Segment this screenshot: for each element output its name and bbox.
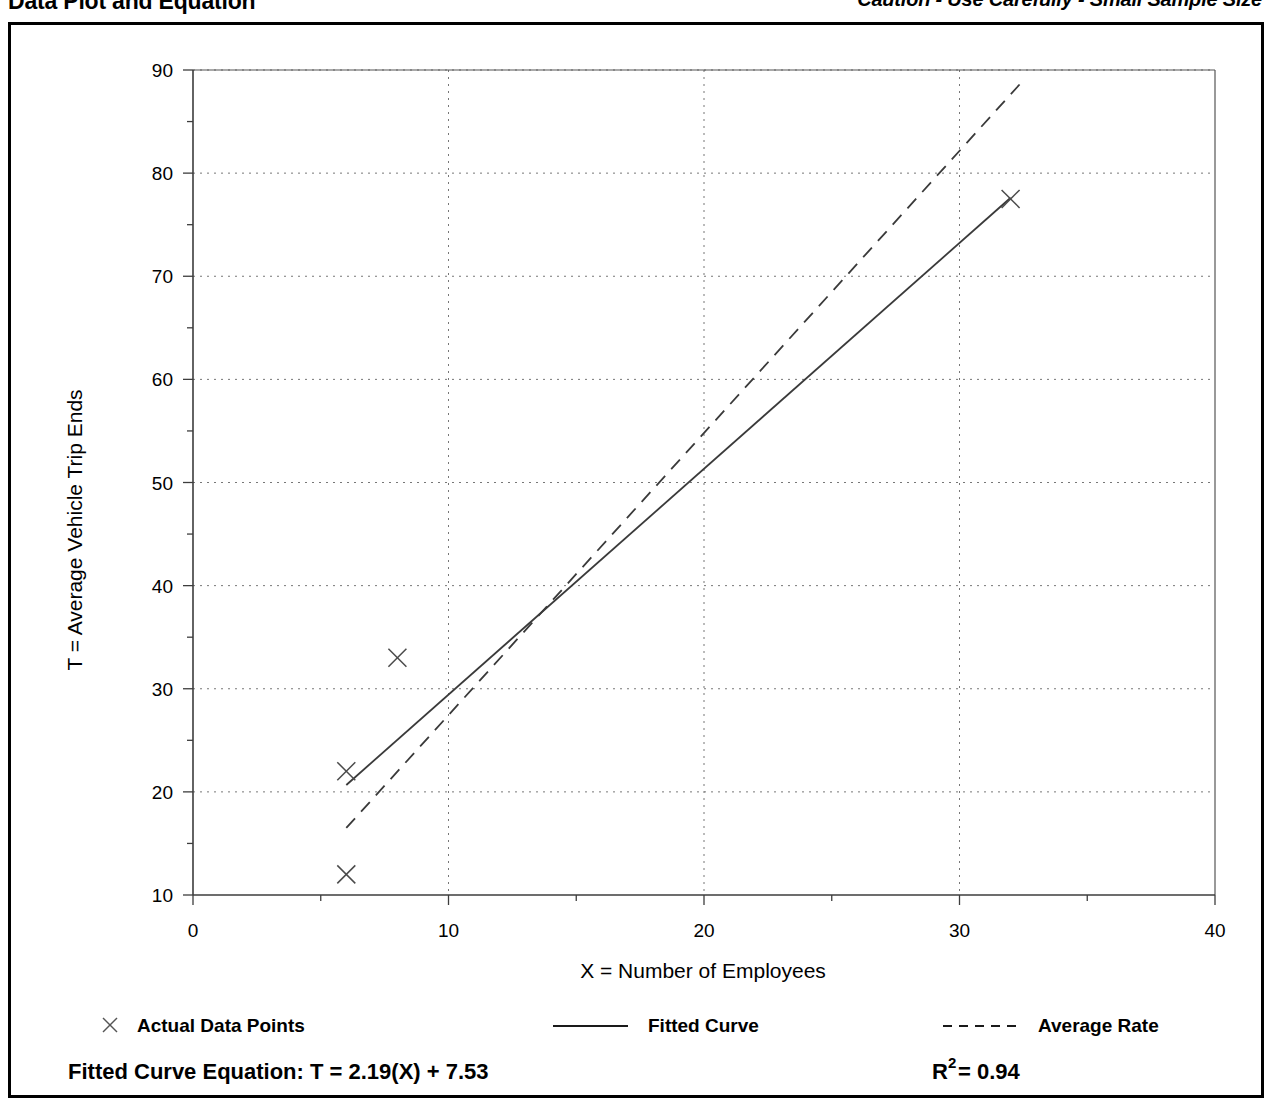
y-tick-label-20: 20 (152, 782, 173, 803)
average-rate-line (346, 80, 1023, 828)
legend-label-average-rate: Average Rate (1038, 1015, 1159, 1036)
x-marker-icon (103, 1018, 117, 1032)
series-average-rate (346, 80, 1023, 828)
y-tick-label-30: 30 (152, 679, 173, 700)
legend-label-fitted-curve: Fitted Curve (648, 1015, 759, 1036)
legend-item-average-rate: Average Rate (943, 1015, 1159, 1036)
x-tick-label-20: 20 (693, 920, 714, 941)
y-tick-label-40: 40 (152, 576, 173, 597)
r-squared-base: R (932, 1059, 948, 1084)
x-tick-label-30: 30 (949, 920, 970, 941)
x-tick-label-0: 0 (188, 920, 199, 941)
x-tick-label-10: 10 (438, 920, 459, 941)
y-tick-label-60: 60 (152, 369, 173, 390)
x-axis-tick-labels: 010203040 (188, 920, 1226, 941)
y-tick-label-10: 10 (152, 885, 173, 906)
y-axis-tick-labels: 102030405060708090 (152, 60, 173, 906)
data-point-marker (388, 649, 406, 667)
y-tick-label-70: 70 (152, 266, 173, 287)
data-point-marker (1002, 190, 1020, 208)
data-point-marker (337, 762, 355, 780)
x-axis-title: X = Number of Employees (580, 959, 826, 982)
chart-legend: Actual Data Points Fitted Curve Average … (103, 1015, 1159, 1036)
y-tick-label-50: 50 (152, 473, 173, 494)
chart-figure: 010203040 102030405060708090 X = Number … (0, 0, 1272, 1105)
horizontal-gridlines (193, 70, 1215, 792)
r-squared-value: = 0.94 (958, 1059, 1021, 1084)
series-fitted-curve (346, 198, 1010, 785)
legend-label-actual-data-points: Actual Data Points (137, 1015, 305, 1036)
equation-row: Fitted Curve Equation: T = 2.19(X) + 7.5… (68, 1054, 1021, 1084)
x-tick-label-40: 40 (1204, 920, 1225, 941)
legend-item-actual-data-points: Actual Data Points (103, 1015, 305, 1036)
data-point-marker (337, 865, 355, 883)
fitted-curve-equation: Fitted Curve Equation: T = 2.19(X) + 7.5… (68, 1059, 489, 1084)
series-actual-data-points (337, 190, 1019, 883)
y-axis-title: T = Average Vehicle Trip Ends (63, 389, 86, 670)
r-squared-exponent: 2 (948, 1054, 956, 1071)
legend-item-fitted-curve: Fitted Curve (553, 1015, 759, 1036)
y-tick-label-80: 80 (152, 163, 173, 184)
fitted-curve-line (346, 198, 1010, 785)
chart-svg: 010203040 102030405060708090 X = Number … (0, 0, 1272, 1105)
y-tick-label-90: 90 (152, 60, 173, 81)
